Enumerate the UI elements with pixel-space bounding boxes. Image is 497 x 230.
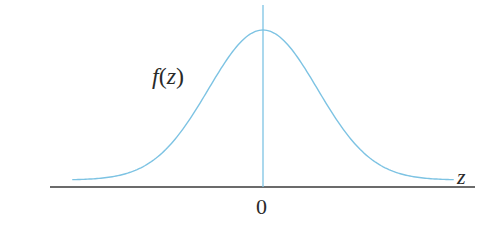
- origin-tick-label: 0: [256, 196, 267, 218]
- function-name: f: [152, 63, 159, 89]
- x-axis-label: z: [457, 166, 466, 188]
- function-open-paren: (: [159, 63, 167, 89]
- function-variable: z: [167, 63, 176, 89]
- normal-distribution-figure: [0, 0, 497, 230]
- function-label: f(z): [152, 64, 184, 88]
- function-close-paren: ): [176, 63, 184, 89]
